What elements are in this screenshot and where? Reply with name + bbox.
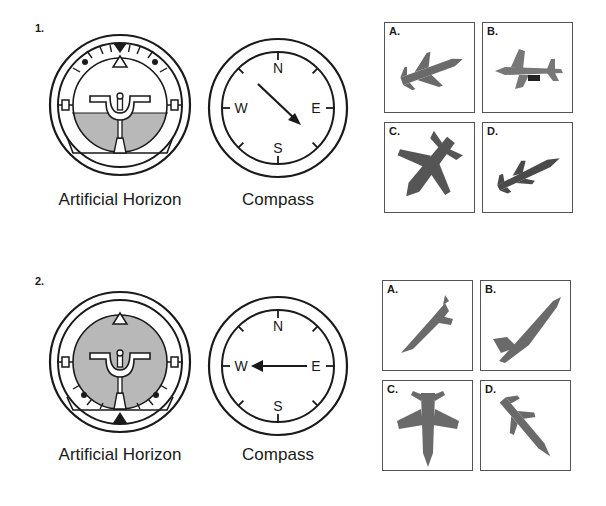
svg-text:W: W [234,100,248,116]
compass-caption-1: Compass [188,190,368,210]
svg-text:N: N [273,60,283,76]
option-1d[interactable]: D. [482,122,573,213]
artificial-horizon-1 [40,25,200,185]
jet-image [385,23,476,114]
option-2d[interactable]: D. [480,380,571,471]
option-1b[interactable]: B. [482,22,573,113]
option-2c[interactable]: C. [382,380,473,471]
jet-image [481,281,572,372]
svg-text:E: E [311,358,320,374]
compass-1: N E S W [203,35,353,185]
option-2b[interactable]: B. [480,280,571,371]
artificial-horizon-caption-1: Artificial Horizon [30,190,210,210]
svg-text:E: E [311,100,320,116]
svg-text:S: S [273,140,282,156]
option-1c[interactable]: C. [384,122,475,213]
svg-text:W: W [234,358,248,374]
jet-image [481,381,572,472]
artificial-horizon-2 [40,285,200,445]
svg-text:S: S [273,398,282,414]
jet-image [383,381,474,472]
compass-2: N E S W [203,293,353,443]
compass-caption-2: Compass [188,445,368,465]
svg-text:N: N [273,318,283,334]
jet-image [483,23,574,114]
jet-image [383,281,474,372]
option-2a[interactable]: A. [382,280,473,371]
artificial-horizon-caption-2: Artificial Horizon [30,445,210,465]
jet-image [385,123,476,214]
option-1a[interactable]: A. [384,22,475,113]
jet-image [483,123,574,214]
